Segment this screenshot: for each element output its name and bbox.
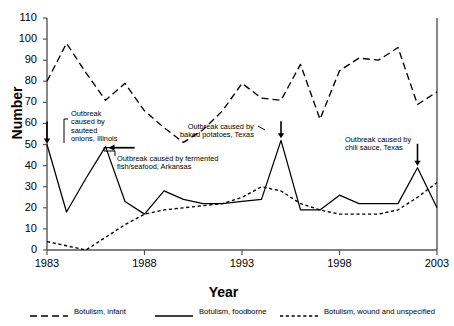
annotation-sauteed-onions: Outbreak caused by sauteed onions, Illin… — [71, 110, 117, 144]
y-tick-label: 50 — [11, 138, 37, 150]
y-tick-label: 80 — [11, 74, 37, 86]
legend-swatch-2 — [280, 307, 318, 317]
chart-legend: Botulism, infantBotulism, foodborneBotul… — [0, 303, 447, 323]
annotation-chili-sauce: Outbreak caused by chili sauce, Texas — [345, 136, 411, 153]
y-tick-label: 110 — [11, 11, 37, 23]
x-tick-label: 2003 — [417, 257, 454, 269]
y-tick-label: 90 — [11, 53, 37, 65]
y-tick-label: 10 — [11, 222, 37, 234]
annotation-baked-potatoes: Outbreak caused by baked potatoes, Texas — [180, 123, 254, 140]
x-tick-label: 1983 — [27, 257, 67, 269]
y-tick-label: 20 — [11, 201, 37, 213]
x-tick-label: 1998 — [320, 257, 360, 269]
y-tick-label: 0 — [11, 243, 37, 255]
legend-label-2: Botulism, wound and unspecified — [324, 307, 435, 316]
y-tick-label: 100 — [11, 32, 37, 44]
y-tick-label: 70 — [11, 95, 37, 107]
legend-swatch-1 — [155, 307, 193, 317]
legend-label-0: Botulism, infant — [74, 307, 126, 316]
legend-label-1: Botulism, foodborne — [199, 307, 267, 316]
x-tick-label: 1988 — [125, 257, 165, 269]
legend-swatch-0 — [30, 307, 68, 317]
y-tick-label: 60 — [11, 116, 37, 128]
y-tick-label: 30 — [11, 180, 37, 192]
x-axis-title: Year — [0, 284, 447, 300]
series-line-2 — [47, 183, 437, 250]
x-tick-label: 1993 — [222, 257, 262, 269]
y-tick-label: 40 — [11, 159, 37, 171]
annotation-fermented-fish: Outbreak caused by fermented fish/seafoo… — [117, 155, 218, 172]
